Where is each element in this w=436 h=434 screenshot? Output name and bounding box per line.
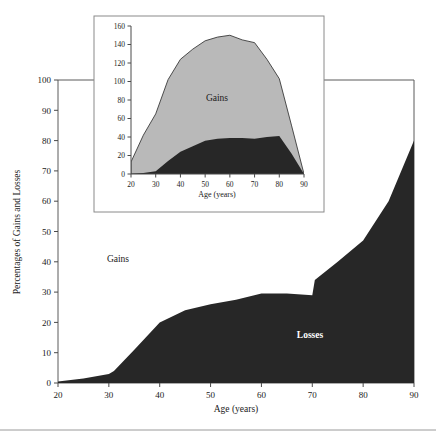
inset-y-tick-label: 120 xyxy=(114,59,126,68)
main-x-tick-label: 30 xyxy=(104,390,114,400)
inset-y-tick-label: 100 xyxy=(114,77,126,86)
main-y-tick-label: 40 xyxy=(42,257,52,267)
main-y-tick-label: 20 xyxy=(42,318,52,328)
inset-y-tick-label: 160 xyxy=(114,22,126,31)
main-x-tick-label: 20 xyxy=(54,390,64,400)
main-x-tick-label: 60 xyxy=(257,390,267,400)
inset-x-tick-label: 70 xyxy=(251,180,259,189)
inset-y-tick-label: 0 xyxy=(121,170,125,179)
inset-y-tick-label: 20 xyxy=(118,151,126,160)
inset-y-tick-label: 40 xyxy=(118,133,126,142)
main-x-tick-label: 90 xyxy=(410,390,420,400)
inset-x-tick-label: 20 xyxy=(127,180,135,189)
main-y-axis-title: Percentages of Gains and Losses xyxy=(12,169,22,294)
inset-x-tick-label: 50 xyxy=(201,180,209,189)
main-x-tick-label: 40 xyxy=(155,390,165,400)
chart-svg: 0102030405060708090100 2030405060708090 … xyxy=(0,0,436,434)
main-x-axis-title: Age (years) xyxy=(214,404,259,415)
main-losses-label: Losses xyxy=(297,330,324,340)
main-y-tick-label: 30 xyxy=(42,287,52,297)
main-y-tick-label: 90 xyxy=(42,106,52,116)
main-y-tick-label: 70 xyxy=(42,166,52,176)
inset-gains-label: Gains xyxy=(206,93,228,103)
inset-x-tick-label: 90 xyxy=(300,180,308,189)
main-y-tick-label: 80 xyxy=(42,136,52,146)
figure-container: 0102030405060708090100 2030405060708090 … xyxy=(0,0,436,434)
main-y-tick-label: 0 xyxy=(47,378,52,388)
main-x-tick-label: 70 xyxy=(308,390,318,400)
main-y-tick-label: 50 xyxy=(42,227,52,237)
inset-x-axis-title: Age (years) xyxy=(198,190,236,199)
main-gains-label: Gains xyxy=(107,254,129,264)
main-y-tick-label: 60 xyxy=(42,196,52,206)
main-y-axis-ticks: 0102030405060708090100 xyxy=(38,75,59,388)
inset-x-tick-label: 40 xyxy=(177,180,185,189)
main-x-tick-label: 80 xyxy=(359,390,369,400)
main-x-axis-ticks: 2030405060708090 xyxy=(54,383,420,400)
inset-x-tick-label: 60 xyxy=(226,180,234,189)
inset-y-tick-label: 60 xyxy=(118,114,126,123)
inset-chart: 020406080100120140160 2030405060708090 A… xyxy=(94,16,324,212)
inset-x-tick-label: 30 xyxy=(152,180,160,189)
main-y-tick-label: 100 xyxy=(38,75,52,85)
inset-y-tick-label: 80 xyxy=(118,96,126,105)
main-y-tick-label: 10 xyxy=(42,348,52,358)
inset-x-tick-label: 80 xyxy=(276,180,284,189)
main-x-tick-label: 50 xyxy=(206,390,216,400)
inset-y-tick-label: 140 xyxy=(114,40,126,49)
